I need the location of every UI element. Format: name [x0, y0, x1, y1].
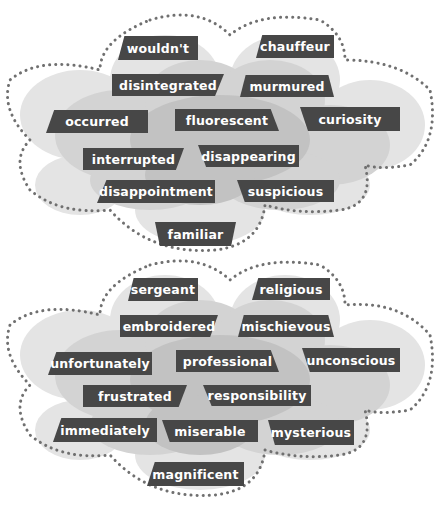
word-label: mysterious: [271, 425, 351, 440]
word-tag: unfortunately: [48, 352, 152, 375]
word-tag: curiosity: [300, 107, 400, 131]
word-label: murmured: [249, 79, 324, 94]
word-label: disintegrated: [119, 78, 217, 93]
word-label: suspicious: [248, 184, 324, 199]
word-label: magnificent: [152, 467, 238, 482]
word-label: miserable: [174, 424, 245, 439]
word-label: religious: [259, 282, 322, 297]
word-tag: magnificent: [147, 462, 244, 486]
word-tag: miserable: [162, 420, 258, 442]
word-tag: suspicious: [237, 180, 334, 202]
word-label: curiosity: [319, 112, 382, 127]
word-tag: fluorescent: [175, 109, 279, 131]
word-label: disappearing: [201, 149, 296, 164]
word-tag: wouldn't: [118, 36, 198, 60]
word-tag: mysterious: [268, 420, 354, 445]
bottom-word-cloud: sergeant religious embroidered mischievo…: [0, 255, 442, 509]
word-tag: responsibility: [203, 385, 311, 406]
word-tag: disappearing: [198, 145, 299, 167]
word-label: disappointment: [99, 184, 213, 199]
word-label: sergeant: [131, 282, 195, 297]
word-label: responsibility: [208, 388, 307, 403]
word-label: fluorescent: [186, 113, 268, 128]
word-tag: chauffeur: [256, 35, 334, 58]
word-tag: disappointment: [97, 180, 215, 203]
top-word-cloud: wouldn't chauffeur disintegrated murmure…: [0, 0, 442, 255]
word-tag: embroidered: [120, 315, 218, 337]
word-label: immediately: [60, 423, 150, 438]
word-tag: frustrated: [83, 385, 187, 407]
word-tag: immediately: [53, 418, 157, 442]
word-label: professional: [183, 354, 272, 369]
word-tag: sergeant: [128, 278, 198, 301]
word-tag: disintegrated: [112, 74, 224, 96]
word-label: occurred: [65, 114, 129, 129]
word-label: chauffeur: [260, 39, 330, 54]
word-label: unfortunately: [50, 356, 150, 371]
word-label: mischievous: [241, 319, 330, 334]
word-tag: murmured: [240, 75, 334, 97]
word-label: familiar: [168, 227, 224, 242]
word-label: embroidered: [123, 319, 216, 334]
word-tag: religious: [252, 278, 330, 300]
word-label: wouldn't: [127, 41, 190, 56]
word-tag: familiar: [155, 222, 236, 246]
word-tag: professional: [176, 350, 279, 372]
word-label: interrupted: [92, 152, 175, 167]
word-label: frustrated: [98, 389, 172, 404]
word-label: unconscious: [307, 353, 396, 368]
word-tag: occurred: [46, 110, 148, 133]
word-tag: mischievous: [238, 315, 334, 337]
word-tag: interrupted: [83, 148, 184, 170]
word-tag: unconscious: [302, 348, 400, 372]
